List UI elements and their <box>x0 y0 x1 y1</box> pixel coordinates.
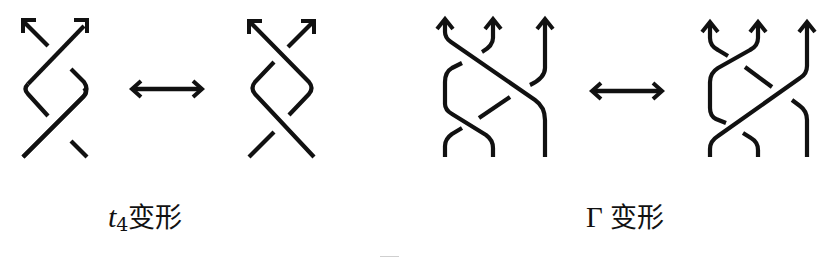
strand-c-top <box>530 21 545 85</box>
strand-left-top <box>710 24 728 56</box>
strand-upper-long <box>26 84 49 116</box>
strand-middle-segment <box>479 97 510 118</box>
strand-bottom-mid <box>743 133 758 157</box>
t4-move-label: t4变形 <box>108 199 182 235</box>
double-arrow-icon <box>592 83 662 99</box>
move-caption: 变形 <box>128 202 182 233</box>
strand-a <box>445 21 545 157</box>
strand-top-left-arm <box>24 22 48 46</box>
gamma-symbol: Γ <box>586 201 603 233</box>
strand-left-body <box>445 63 493 157</box>
strand-top-right-arm <box>288 22 313 47</box>
strand-right-lower <box>792 100 807 157</box>
gamma-move-label: Γ变形 <box>586 199 664 235</box>
move-caption: 变形 <box>610 202 664 233</box>
strand-right-vertex <box>71 69 87 96</box>
t4-braid-after <box>249 21 314 157</box>
strand-bottom-left <box>445 128 462 157</box>
t4-braid-before <box>23 20 87 157</box>
strand-middle-segment <box>745 67 772 87</box>
strand-bottom-right-arm <box>71 141 87 157</box>
gamma-braid-before <box>437 19 553 157</box>
gamma-braid-after <box>702 22 815 157</box>
strand-diagonal-long <box>23 96 84 157</box>
strand-bottom-left-arm <box>249 132 274 157</box>
double-arrow-icon <box>132 81 202 97</box>
scan-artifact-mark <box>380 256 399 257</box>
subscript: 4 <box>116 213 128 235</box>
